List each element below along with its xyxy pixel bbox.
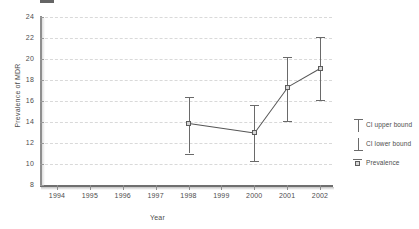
error-bar-upper-cap: [283, 57, 292, 58]
data-point-marker: [252, 130, 257, 135]
y-tick-label: 10: [14, 160, 34, 167]
data-point-marker: [318, 66, 323, 71]
x-axis-title: Year: [150, 214, 165, 221]
error-bar-lower-cap: [283, 121, 292, 122]
x-axis-shadow: [41, 187, 334, 190]
gridline: [40, 101, 332, 103]
y-tick: [40, 38, 44, 39]
x-tick: [57, 185, 58, 190]
error-bar-lower-cap: [185, 154, 194, 155]
y-tick: [40, 185, 44, 186]
x-tick: [90, 185, 91, 190]
error-bar-upper-cap: [250, 105, 259, 106]
x-tick: [254, 185, 255, 190]
ci-upper-cap-icon: [354, 119, 363, 120]
legend-label-ci-lower-bound: CI lower bound: [366, 140, 411, 147]
ci-upper-bound-icon: [358, 119, 359, 132]
error-bar-upper-cap: [185, 97, 194, 98]
plot-area: [40, 17, 332, 185]
gridline: [40, 59, 332, 61]
data-point-marker: [186, 121, 191, 126]
gridline: [40, 17, 332, 19]
error-bar-lower-cap: [316, 100, 325, 101]
y-tick: [40, 122, 44, 123]
y-tick: [40, 101, 44, 102]
ci-lower-cap-icon: [354, 150, 363, 151]
chart-container: 24222018161412108 1994199519961997199819…: [0, 0, 419, 229]
prevalence-marker-icon: [355, 161, 360, 166]
legend-item-prevalence: Prevalence: [352, 156, 419, 175]
gridline: [40, 80, 332, 82]
x-tick: [287, 185, 288, 190]
y-tick: [40, 17, 44, 18]
y-tick: [40, 59, 44, 60]
x-tick: [156, 185, 157, 190]
legend-label-ci-upper-bound: CI upper bound: [366, 121, 412, 128]
y-tick-label: 8: [14, 181, 34, 188]
error-bar-upper-cap: [316, 37, 325, 38]
y-tick: [40, 143, 44, 144]
error-bar-lower-cap: [250, 161, 259, 162]
y-tick: [40, 80, 44, 81]
legend-item-ci-lower-bound: CI lower bound: [352, 137, 419, 156]
gridline: [40, 143, 332, 145]
legend-item-ci-upper-bound: CI upper bound: [352, 118, 419, 137]
x-tick: [320, 185, 321, 190]
gridline: [40, 38, 332, 40]
prevalence-cap-icon: [353, 159, 362, 160]
x-axis-line: [40, 185, 333, 187]
x-tick: [189, 185, 190, 190]
chart-legend: CI upper bound CI lower bound Prevalence: [352, 118, 419, 175]
legend-label-prevalence: Prevalence: [366, 159, 400, 166]
gridline: [40, 164, 332, 166]
chart-title-clipped: [40, 0, 54, 3]
data-point-marker: [285, 85, 290, 90]
y-axis-title: Prevalence of MDR: [14, 41, 21, 151]
y-tick-label: 24: [14, 13, 34, 20]
y-tick: [40, 164, 44, 165]
x-tick: [123, 185, 124, 190]
x-tick: [221, 185, 222, 190]
x-tick-label: 2002: [300, 192, 340, 199]
